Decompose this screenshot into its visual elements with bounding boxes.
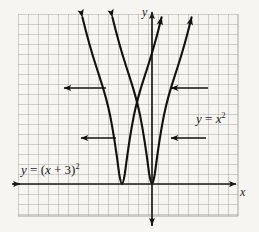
shift-label-equals: = bbox=[27, 162, 41, 177]
curve-label-exponent: 2 bbox=[221, 111, 225, 120]
y-axis-label: y bbox=[142, 6, 147, 18]
curve-label-y-equals-x-squared: y = x2 bbox=[196, 112, 225, 125]
curve-label-equals: = bbox=[202, 111, 216, 126]
curve-label-y-equals-x-plus-3-squared: y = (x + 3)2 bbox=[21, 163, 79, 176]
shift-label-plus: + bbox=[51, 162, 65, 177]
shift-label-exponent: 2 bbox=[75, 162, 79, 171]
x-axis-label: x bbox=[240, 186, 245, 198]
parabola-translation-figure: y = x2 y = (x + 3)2 y x bbox=[0, 0, 259, 232]
